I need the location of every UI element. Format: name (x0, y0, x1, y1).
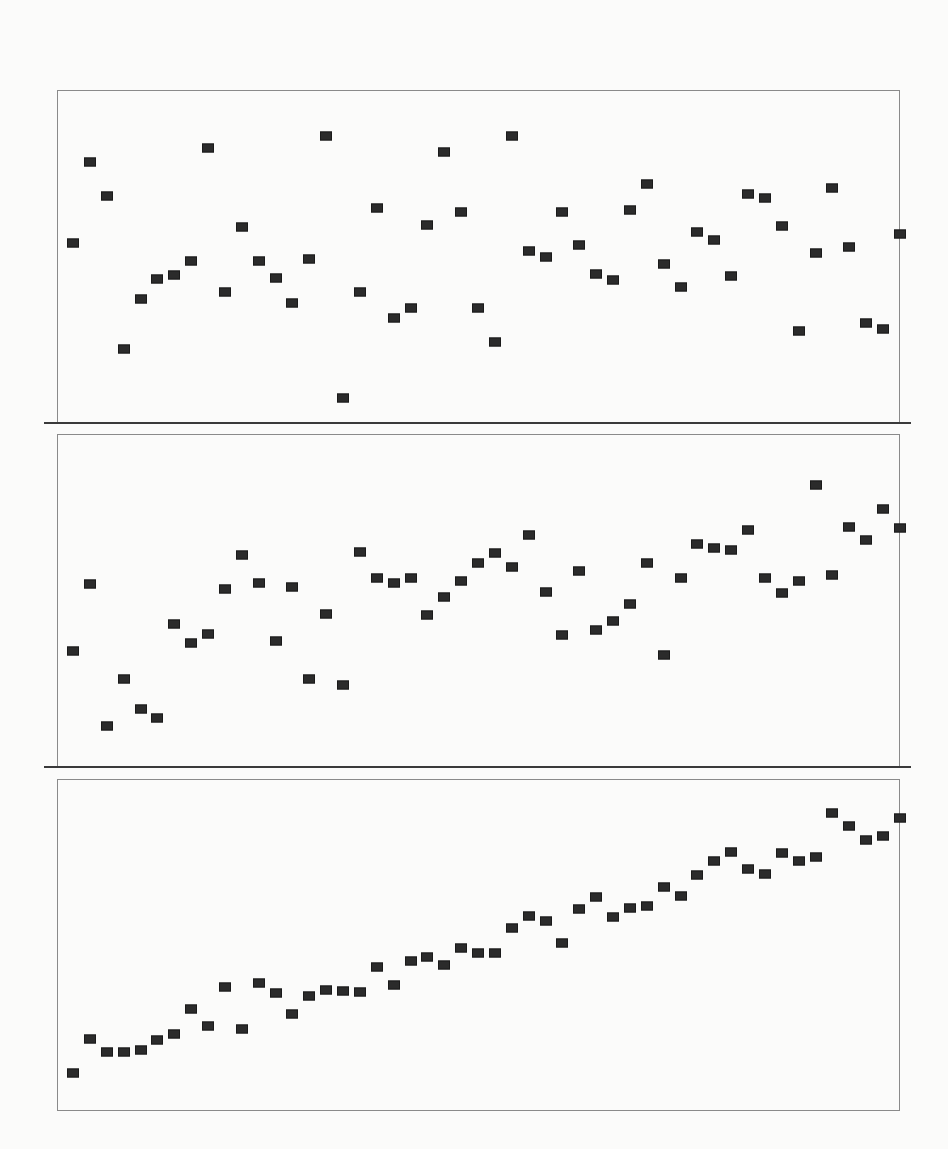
data-point-marker (455, 944, 467, 953)
data-point-marker (607, 276, 619, 285)
data-point-marker (388, 579, 400, 588)
data-point-marker (641, 180, 653, 189)
data-point-marker (472, 949, 484, 958)
data-point-marker (675, 574, 687, 583)
data-point-marker (236, 1025, 248, 1034)
data-point-marker (540, 588, 552, 597)
data-point-marker (168, 1030, 180, 1039)
data-point-marker (826, 809, 838, 818)
data-point-marker (489, 549, 501, 558)
data-point-marker (202, 1022, 214, 1031)
data-point-marker (185, 257, 197, 266)
data-point-marker (320, 610, 332, 619)
data-point-marker (337, 987, 349, 996)
data-point-marker (877, 325, 889, 334)
data-point-marker (641, 559, 653, 568)
data-point-marker (84, 1035, 96, 1044)
data-point-marker (556, 208, 568, 217)
scatter-panel-2 (57, 434, 900, 767)
data-point-marker (489, 338, 501, 347)
data-point-marker (371, 574, 383, 583)
data-point-marker (742, 865, 754, 874)
data-point-marker (405, 304, 417, 313)
data-point-marker (675, 892, 687, 901)
data-point-marker (168, 620, 180, 629)
data-point-marker (472, 304, 484, 313)
data-point-marker (236, 551, 248, 560)
data-point-marker (506, 924, 518, 933)
data-point-marker (405, 957, 417, 966)
data-point-marker (523, 912, 535, 921)
data-point-marker (236, 223, 248, 232)
panel-separator-1 (44, 422, 911, 424)
data-point-marker (151, 714, 163, 723)
data-point-marker (860, 536, 872, 545)
data-point-marker (810, 853, 822, 862)
data-point-marker (894, 230, 906, 239)
data-point-marker (67, 1069, 79, 1078)
data-point-marker (303, 255, 315, 264)
data-point-marker (742, 526, 754, 535)
data-point-marker (253, 979, 265, 988)
data-point-marker (286, 299, 298, 308)
data-point-marker (84, 158, 96, 167)
data-point-marker (793, 577, 805, 586)
data-point-marker (202, 630, 214, 639)
data-point-marker (118, 1048, 130, 1057)
data-point-marker (219, 585, 231, 594)
data-point-marker (438, 148, 450, 157)
panel-separator-2 (44, 766, 911, 768)
data-point-marker (725, 848, 737, 857)
data-point-marker (101, 1048, 113, 1057)
data-point-marker (67, 239, 79, 248)
data-point-marker (658, 260, 670, 269)
data-point-marker (523, 531, 535, 540)
data-point-marker (810, 481, 822, 490)
data-point-marker (354, 548, 366, 557)
data-point-marker (337, 681, 349, 690)
data-point-marker (641, 902, 653, 911)
data-point-marker (624, 206, 636, 215)
data-point-marker (759, 574, 771, 583)
data-point-marker (877, 505, 889, 514)
data-point-marker (118, 345, 130, 354)
data-point-marker (843, 822, 855, 831)
scatter-panel-3 (57, 779, 900, 1111)
data-point-marker (371, 204, 383, 213)
data-point-marker (135, 705, 147, 714)
data-point-marker (826, 184, 838, 193)
data-point-marker (506, 132, 518, 141)
data-point-marker (219, 983, 231, 992)
data-point-marker (506, 563, 518, 572)
data-point-marker (590, 626, 602, 635)
data-point-marker (101, 722, 113, 731)
data-point-marker (253, 257, 265, 266)
data-point-marker (860, 319, 872, 328)
data-point-marker (354, 988, 366, 997)
data-point-marker (742, 190, 754, 199)
data-point-marker (843, 523, 855, 532)
data-point-marker (540, 253, 552, 262)
data-point-marker (708, 544, 720, 553)
data-point-marker (675, 283, 687, 292)
data-point-marker (523, 247, 535, 256)
data-point-marker (388, 981, 400, 990)
data-point-marker (472, 559, 484, 568)
data-point-marker (860, 836, 872, 845)
data-point-marker (438, 593, 450, 602)
data-point-marker (691, 228, 703, 237)
data-point-marker (421, 953, 433, 962)
data-point-marker (826, 571, 838, 580)
data-point-marker (455, 577, 467, 586)
data-point-marker (877, 832, 889, 841)
data-point-marker (725, 546, 737, 555)
data-point-marker (270, 637, 282, 646)
data-point-marker (405, 574, 417, 583)
data-point-marker (135, 1046, 147, 1055)
data-point-marker (624, 904, 636, 913)
data-point-marker (421, 611, 433, 620)
data-point-marker (658, 651, 670, 660)
data-point-marker (540, 917, 552, 926)
data-point-marker (776, 849, 788, 858)
data-point-marker (320, 986, 332, 995)
